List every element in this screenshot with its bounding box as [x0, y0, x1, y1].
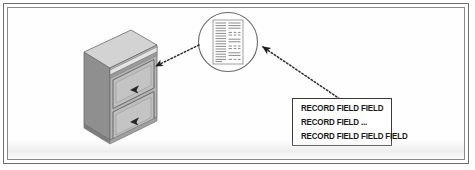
diagram-artwork — [0, 0, 475, 170]
magnified-document — [199, 13, 258, 72]
record-structure-lines: RECORD FIELD FIELD RECORD FIELD ... RECO… — [297, 100, 392, 144]
cabinet-connector — [156, 45, 199, 66]
filing-cabinet — [84, 30, 157, 144]
record-line-1: RECORD FIELD FIELD — [301, 102, 386, 115]
record-connector — [263, 47, 340, 99]
record-line-2: RECORD FIELD ... — [301, 116, 386, 129]
diagram-figure: RECORD FIELD FIELD RECORD FIELD ... RECO… — [0, 0, 475, 170]
record-line-3: RECORD FIELD FIELD FIELD — [301, 130, 386, 143]
